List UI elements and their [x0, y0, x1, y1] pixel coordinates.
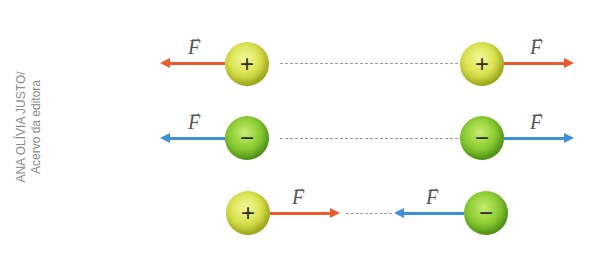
positive-charge-sphere: + [226, 191, 270, 235]
credit-line-2: Acervo da editora [29, 27, 44, 227]
force-arrow-left [168, 137, 226, 140]
force-label: →F [530, 36, 542, 59]
credit-line-1: ANA OLÍVIA JUSTO/ [14, 27, 29, 227]
force-label: →F [188, 111, 200, 134]
force-arrow-right [504, 62, 566, 65]
positive-charge-sphere: + [225, 42, 269, 86]
force-arrow-right [270, 212, 332, 215]
negative-charge-sphere: − [464, 191, 508, 235]
dashed-line [346, 213, 392, 214]
negative-charge-sphere: − [460, 116, 504, 160]
positive-charge-sphere: + [460, 42, 504, 86]
dashed-line [280, 63, 458, 64]
force-arrow-left [402, 212, 464, 215]
force-label: →F [530, 111, 542, 134]
force-label: →F [188, 36, 200, 59]
image-credit: ANA OLÍVIA JUSTO/ Acervo da editora [14, 27, 44, 227]
force-arrow-right [504, 137, 566, 140]
force-arrow-left [168, 62, 226, 65]
force-label: →F [292, 186, 304, 209]
negative-charge-sphere: − [225, 116, 269, 160]
dashed-line [280, 138, 458, 139]
force-label: →F [426, 186, 438, 209]
